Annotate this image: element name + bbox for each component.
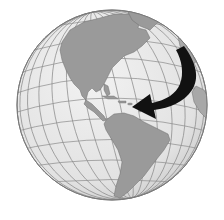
globe-svg [0,0,224,220]
globe-illustration [0,0,224,220]
